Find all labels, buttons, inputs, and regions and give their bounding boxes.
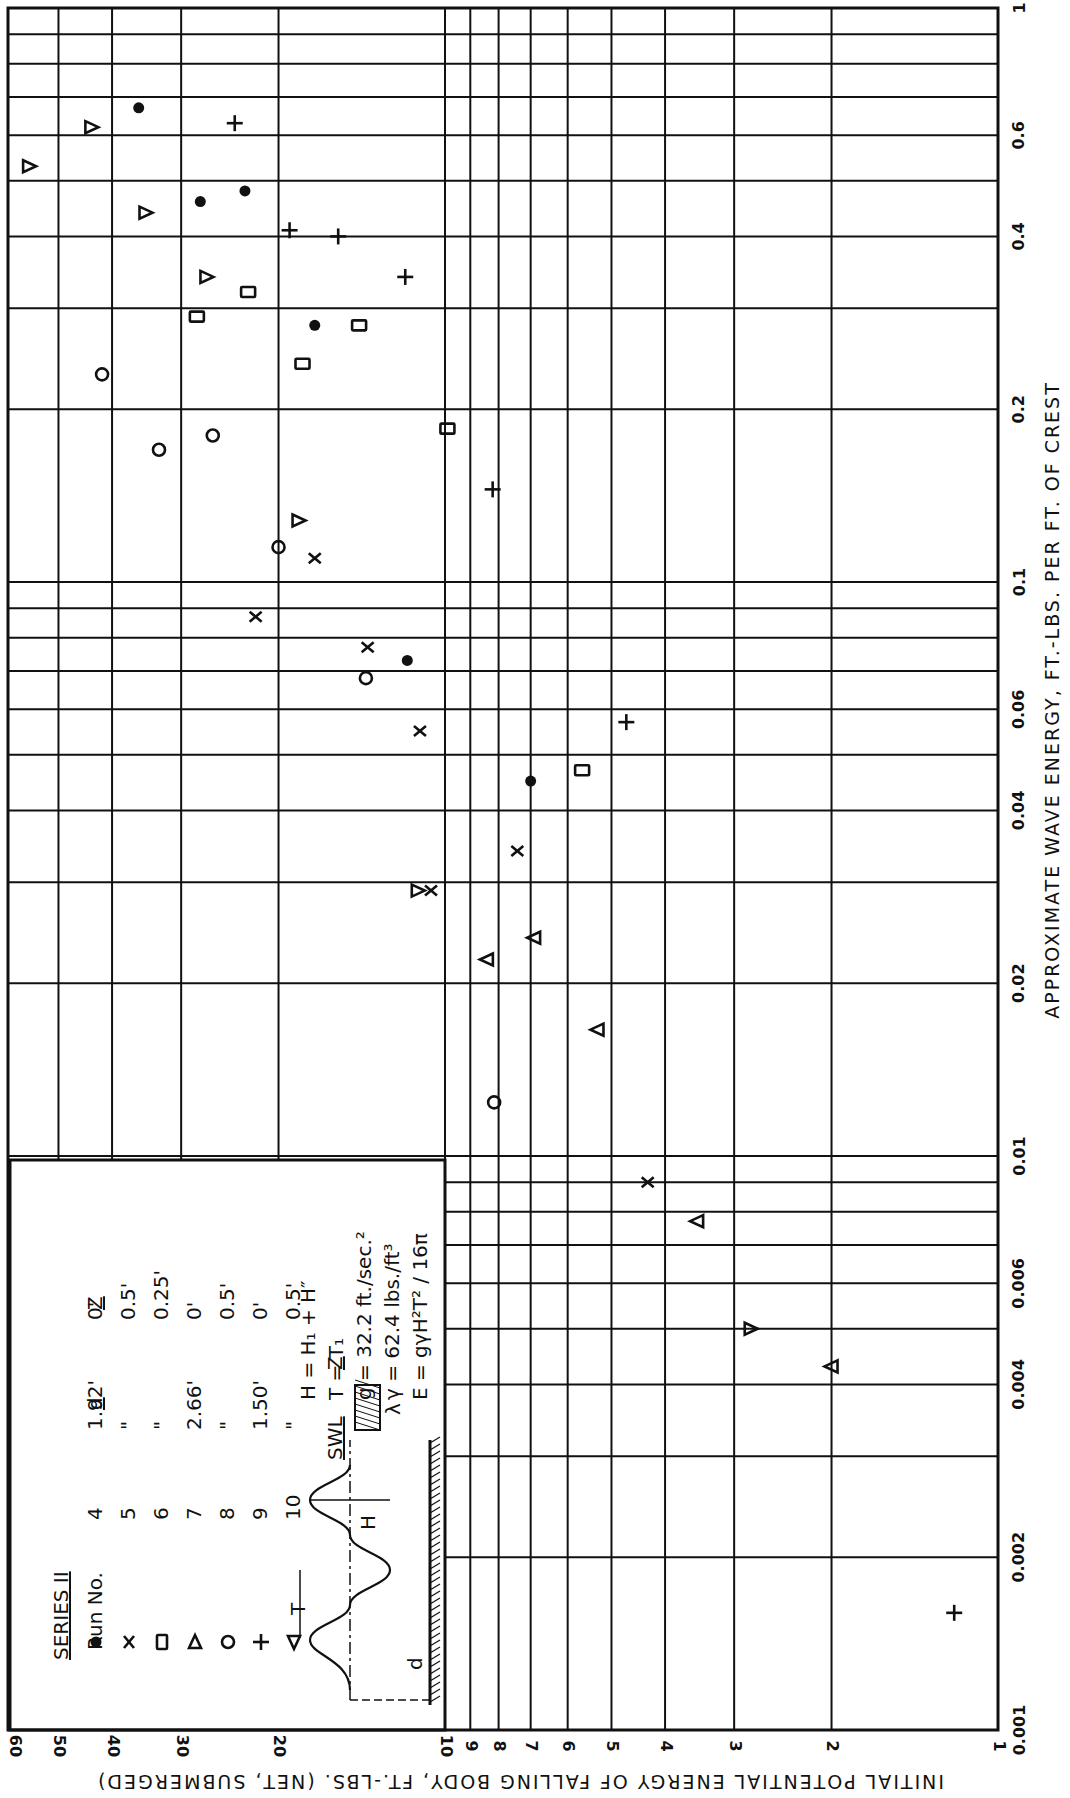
y-tick-label: 60	[6, 1735, 25, 1757]
marker-square-icon	[241, 287, 255, 297]
legend-formula: g = 32.2 ft./sec.²	[352, 1231, 376, 1400]
marker-plus-icon	[946, 1605, 962, 1621]
y-tick-label: 4	[657, 1740, 676, 1751]
legend-z-value: 0.5'	[215, 1283, 239, 1320]
marker-x-icon	[362, 642, 374, 652]
marker-plus-icon	[397, 269, 413, 285]
marker-x-icon	[309, 553, 321, 563]
legend-run-no: 5	[116, 1507, 140, 1520]
legend-formula: γ = 62.4 lbs./ft³	[380, 1243, 404, 1400]
marker-tri-right-icon	[200, 271, 213, 283]
marker-square-icon	[575, 765, 589, 775]
y-tick-label: 20	[270, 1735, 289, 1757]
y-tick-label: 8	[490, 1740, 509, 1751]
marker-dot-icon	[309, 320, 320, 331]
legend-box: SERIES IIRun No.dZ41.92'0'5"0.5'6"0.25'7…	[10, 1160, 445, 1730]
y-tick-label: 40	[104, 1735, 123, 1757]
x-tick-label: 0.1	[1010, 568, 1029, 596]
y-tick-label: 30	[173, 1735, 192, 1757]
diagram-lambda-label: λ	[381, 1403, 405, 1415]
marker-dot-icon	[195, 196, 206, 207]
y-tick-label: 2	[823, 1740, 842, 1751]
x-tick-label: 0.2	[1010, 395, 1029, 423]
y-tick-label: 1	[990, 1740, 1009, 1751]
legend-z-value: 0.25'	[149, 1270, 173, 1320]
x-tick-label: 0.6	[1010, 121, 1029, 149]
marker-x-icon	[511, 846, 523, 856]
marker-plus-icon	[618, 714, 634, 730]
legend-z-value: 0'	[182, 1302, 206, 1320]
swl-label: SWL	[323, 1416, 347, 1460]
marker-square-icon	[352, 320, 366, 330]
marker-dot-icon	[239, 185, 250, 196]
x-tick-label: 1	[1010, 2, 1029, 13]
series-run-no.-4	[133, 102, 536, 786]
y-tick-label: 50	[50, 1735, 69, 1757]
marker-plus-icon	[330, 228, 346, 244]
marker-circle-icon	[207, 429, 219, 441]
marker-circle-icon	[360, 672, 372, 684]
y-axis-title: INITIAL POTENTIAL ENERGY OF FALLING BODY…	[96, 1771, 944, 1793]
marker-dot-icon	[402, 655, 413, 666]
diagram-t-label: T	[286, 1602, 310, 1616]
marker-tri-right-icon	[23, 160, 36, 172]
marker-tri-right-icon	[293, 514, 306, 526]
marker-tri-left-icon	[480, 953, 493, 965]
x-tick-label: 0.004	[1010, 1359, 1029, 1410]
marker-circle-icon	[96, 368, 108, 380]
series-run-no.-8	[96, 368, 500, 1108]
y-tick-label: 3	[726, 1740, 745, 1751]
legend-z-value: 0'	[83, 1302, 107, 1320]
marker-dot-icon	[91, 1637, 102, 1648]
legend-run-no: 6	[149, 1507, 173, 1520]
x-tick-label: 0.001	[1010, 1705, 1029, 1756]
marker-x-icon	[414, 726, 426, 736]
y-tick-label: 6	[559, 1740, 578, 1751]
legend-d-value: 1.92'	[83, 1380, 107, 1430]
marker-square-icon	[190, 312, 204, 322]
y-tick-label: 10	[437, 1735, 456, 1757]
x-tick-label: 0.02	[1010, 963, 1029, 1002]
marker-tri-left-icon	[527, 932, 540, 944]
x-tick-label: 0.006	[1010, 1258, 1029, 1309]
legend-d-value: "	[149, 1421, 173, 1430]
legend-run-no: 8	[215, 1507, 239, 1520]
marker-plus-icon	[227, 115, 243, 131]
y-tick-label: 7	[522, 1740, 541, 1751]
legend-run-no: 7	[182, 1507, 206, 1520]
legend-run-no: 4	[83, 1507, 107, 1520]
marker-tri-right-icon	[140, 207, 153, 219]
marker-dot-icon	[133, 102, 144, 113]
series-run-no.-6	[190, 287, 589, 775]
legend-run-no: 10	[281, 1495, 305, 1520]
x-tick-label: 0.01	[1010, 1136, 1029, 1175]
legend-d-value: 2.66'	[182, 1380, 206, 1430]
x-tick-label: 0.002	[1010, 1532, 1029, 1583]
marker-x-icon	[250, 612, 262, 622]
diagram-d-label: d	[403, 1657, 427, 1670]
x-axis-title: APPROXIMATE WAVE ENERGY, FT.-LBS. PER FT…	[1041, 381, 1063, 1019]
legend-d-value: 1.50'	[248, 1380, 272, 1430]
marker-tri-right-icon	[85, 121, 98, 133]
y-tick-label: 9	[462, 1740, 481, 1751]
legend-formula: E = gγH²T² / 16π	[408, 1233, 432, 1400]
wave-energy-scatter-chart: SERIES IIRun No.dZ41.92'0'5"0.5'6"0.25'7…	[0, 0, 1070, 1798]
marker-square-icon	[440, 424, 454, 434]
series-run-no.-10	[480, 932, 838, 1373]
legend-d-value: "	[281, 1421, 305, 1430]
diagram-z-label: Z	[323, 1356, 347, 1370]
marker-circle-icon	[153, 444, 165, 456]
series-run-no.-7	[23, 121, 758, 1335]
x-tick-label: 0.4	[1010, 222, 1029, 250]
y-tick-label: 5	[603, 1740, 622, 1751]
legend-title: SERIES II	[49, 1571, 73, 1660]
diagram-h-label: H	[356, 1515, 380, 1530]
x-tick-label: 0.06	[1010, 690, 1029, 729]
legend-z-value: 0.5'	[116, 1283, 140, 1320]
legend-z-value: 0'	[248, 1302, 272, 1320]
legend-formula: H = H₁ + H″	[296, 1280, 320, 1400]
x-tick-label: 0.04	[1010, 791, 1029, 830]
marker-tri-left-icon	[690, 1215, 703, 1227]
marker-tri-right-icon	[412, 885, 425, 897]
series-run-no.-5	[250, 553, 654, 1187]
